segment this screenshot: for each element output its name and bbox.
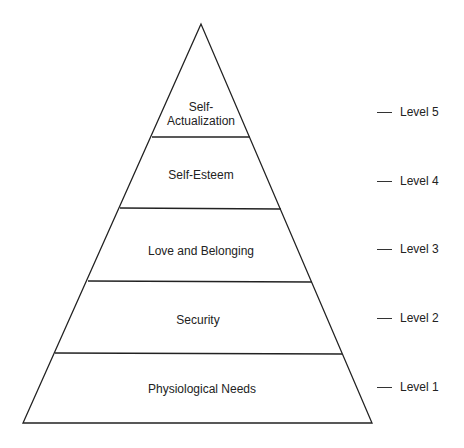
level-5-marker: Level 5 bbox=[377, 105, 439, 119]
tier-label-line1: Self- bbox=[167, 100, 235, 114]
level-label: Level 4 bbox=[400, 174, 439, 188]
level-label: Level 5 bbox=[400, 105, 439, 119]
pyramid-triangle bbox=[23, 24, 372, 423]
tier-love-and-belonging: Love and Belonging bbox=[148, 244, 254, 258]
tier-divider-2-1 bbox=[55, 353, 342, 354]
level-3-marker: Level 3 bbox=[377, 242, 439, 256]
tier-self-actualization: Self- Actualization bbox=[167, 100, 235, 128]
level-1-marker: Level 1 bbox=[377, 380, 439, 394]
tier-divider-3-2 bbox=[88, 281, 312, 282]
tier-self-esteem: Self-Esteem bbox=[168, 168, 233, 182]
level-label: Level 3 bbox=[400, 242, 439, 256]
tier-security: Security bbox=[176, 313, 219, 327]
level-2-marker: Level 2 bbox=[377, 311, 439, 325]
dash-icon bbox=[377, 387, 392, 388]
tier-physiological-needs: Physiological Needs bbox=[148, 382, 256, 396]
level-label: Level 1 bbox=[400, 380, 439, 394]
tier-label-line2: Actualization bbox=[167, 114, 235, 128]
level-label: Level 2 bbox=[400, 311, 439, 325]
level-4-marker: Level 4 bbox=[377, 174, 439, 188]
dash-icon bbox=[377, 318, 392, 319]
dash-icon bbox=[377, 249, 392, 250]
tier-divider-4-3 bbox=[120, 208, 281, 209]
dash-icon bbox=[377, 181, 392, 182]
dash-icon bbox=[377, 112, 392, 113]
